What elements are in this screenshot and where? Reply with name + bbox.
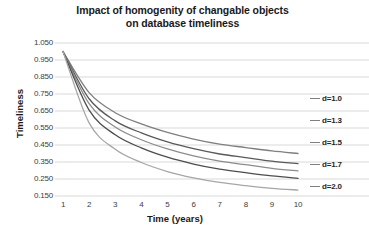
- legend-item[interactable]: d=2.0: [310, 180, 342, 192]
- y-axis-tick-label: 1.050: [19, 38, 53, 47]
- x-axis-tick-label: 7: [211, 200, 229, 209]
- y-axis-tick-label: 0.250: [19, 174, 53, 183]
- x-axis-tick-label: 1: [54, 200, 72, 209]
- legend-item[interactable]: d=1.5: [310, 136, 342, 148]
- legend-item[interactable]: d=1.3: [310, 114, 342, 126]
- legend-label: d=1.7: [322, 160, 342, 169]
- y-axis-tick-label: 0.350: [19, 157, 53, 166]
- series-line: [63, 52, 298, 164]
- series-line: [63, 52, 298, 191]
- legend-label: d=2.0: [322, 182, 342, 191]
- legend-item[interactable]: d=1.7: [310, 158, 342, 170]
- x-axis-tick-label: 4: [132, 200, 150, 209]
- x-axis-tick-label: 3: [106, 200, 124, 209]
- series-lines: [63, 52, 298, 191]
- chart-container: Impact of homogenity of changable object…: [0, 0, 369, 236]
- x-axis-tick-label: 10: [289, 200, 307, 209]
- x-axis-tick-label: 8: [237, 200, 255, 209]
- legend-item[interactable]: d=1.0: [310, 92, 342, 104]
- y-axis-tick-label: 0.950: [19, 55, 53, 64]
- legend-swatch-icon: [310, 164, 320, 165]
- legend-swatch-icon: [310, 186, 320, 187]
- x-axis-tick-label: 2: [80, 200, 98, 209]
- legend-label: d=1.5: [322, 138, 342, 147]
- legend-swatch-icon: [310, 120, 320, 121]
- legend-label: d=1.0: [322, 94, 342, 103]
- legend-swatch-icon: [310, 142, 320, 143]
- y-axis-tick-label: 0.150: [19, 191, 53, 200]
- legend-label: d=1.3: [322, 116, 342, 125]
- legend-swatch-icon: [310, 98, 320, 99]
- x-axis-tick-label: 5: [158, 200, 176, 209]
- x-axis-tick-label: 9: [263, 200, 281, 209]
- series-line: [63, 52, 298, 154]
- x-axis-tick-label: 6: [185, 200, 203, 209]
- y-axis-title: Timeliness: [14, 74, 25, 154]
- x-axis-title: Time (years): [60, 213, 290, 224]
